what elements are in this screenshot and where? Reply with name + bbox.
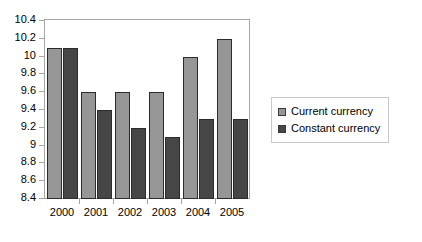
- bar: [149, 92, 164, 199]
- y-axis-tick-mark: [39, 56, 44, 57]
- x-axis-tick-mark: [215, 199, 216, 204]
- bar: [115, 92, 130, 199]
- bar: [47, 48, 62, 199]
- bar-chart: 10.410.2109.89.69.49.298.88.68.4 2000200…: [0, 0, 422, 242]
- x-axis-tick-mark: [79, 199, 80, 204]
- y-axis-tick-mark: [39, 73, 44, 74]
- x-axis-tick-label: 2005: [220, 207, 244, 218]
- bar: [81, 92, 96, 199]
- chart-legend: Current currencyConstant currency: [271, 97, 389, 143]
- x-axis-tick-label: 2003: [152, 207, 176, 218]
- y-axis-tick-mark: [39, 91, 44, 92]
- x-axis-tick-label: 2002: [118, 207, 142, 218]
- x-axis: 200020012002200320042005: [44, 203, 250, 223]
- x-axis-tick-mark: [181, 199, 182, 204]
- y-axis-tick-label: 10.4: [15, 14, 36, 25]
- bar: [183, 57, 198, 199]
- y-axis-tick-label: 9.2: [21, 120, 36, 131]
- y-axis-tick-label: 9.4: [21, 103, 36, 114]
- y-axis-tick-mark: [39, 38, 44, 39]
- y-axis: 10.410.2109.89.69.49.298.88.68.4: [0, 19, 36, 199]
- y-axis-tick-label: 8.8: [21, 156, 36, 167]
- y-axis-tick-mark: [39, 145, 44, 146]
- x-axis-tick-label: 2001: [84, 207, 108, 218]
- bar: [165, 137, 180, 199]
- x-axis-tick-mark: [147, 199, 148, 204]
- y-axis-tick-mark: [39, 180, 44, 181]
- y-axis-tick-mark: [39, 109, 44, 110]
- legend-label: Constant currency: [291, 123, 380, 134]
- bar: [97, 110, 112, 199]
- y-axis-tick-label: 9: [30, 138, 36, 149]
- y-axis-tick-label: 8.6: [21, 174, 36, 185]
- y-axis-tick-mark: [39, 198, 44, 199]
- y-axis-tick-label: 10: [24, 49, 36, 60]
- y-axis-tick-mark: [39, 162, 44, 163]
- x-axis-tick-mark: [113, 199, 114, 204]
- bar: [233, 119, 248, 199]
- x-axis-tick-label: 2000: [50, 207, 74, 218]
- legend-item: Current currency: [278, 103, 380, 120]
- bars-layer: [45, 20, 249, 199]
- y-axis-tick-label: 9.8: [21, 67, 36, 78]
- y-axis-tick-label: 8.4: [21, 192, 36, 203]
- bar: [199, 119, 214, 199]
- bar: [63, 48, 78, 199]
- legend-swatch-icon: [278, 108, 286, 116]
- y-axis-tick-mark: [39, 127, 44, 128]
- legend-swatch-icon: [278, 125, 286, 133]
- y-axis-tick-label: 10.2: [15, 31, 36, 42]
- y-axis-tick-label: 9.6: [21, 85, 36, 96]
- legend-label: Current currency: [291, 106, 373, 117]
- bar: [217, 39, 232, 199]
- y-axis-tick-mark: [39, 20, 44, 21]
- legend-item: Constant currency: [278, 120, 380, 137]
- bar: [131, 128, 146, 199]
- x-axis-tick-label: 2004: [186, 207, 210, 218]
